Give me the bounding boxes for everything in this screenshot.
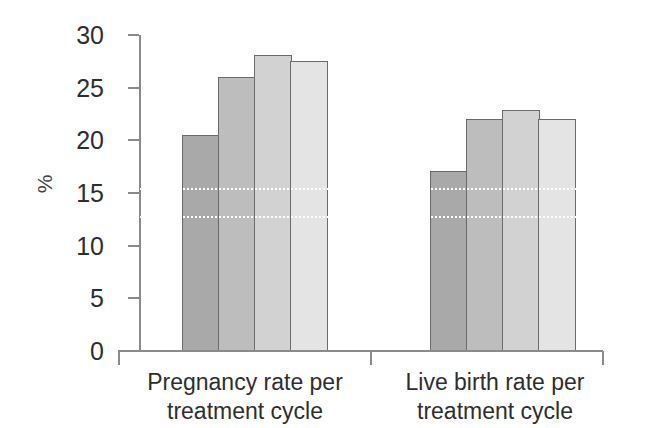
y-tick-label-10: 10 (62, 233, 104, 258)
bar-g2-s2 (466, 119, 504, 351)
y-tick-mark-20 (128, 139, 139, 141)
bar-g2-s4 (538, 119, 576, 351)
y-axis-tick-labels: 302520151050 (62, 0, 104, 428)
y-tick-mark-15 (128, 192, 139, 194)
bar-g1-s3 (254, 55, 292, 351)
bar-g1-s2 (218, 77, 256, 351)
y-tick-label-20: 20 (62, 128, 104, 153)
bar-group-1 (182, 35, 328, 351)
x-group-label-1: Pregnancy rate pertreatment cycle (115, 368, 375, 426)
x-group-label-2-line2: treatment cycle (365, 397, 625, 426)
x-axis-divider-2 (370, 351, 372, 365)
bar-g1-s4 (290, 61, 328, 351)
bar-g2-s1 (430, 171, 468, 351)
y-tick-mark-5 (128, 297, 139, 299)
y-tick-label-0: 0 (62, 339, 104, 364)
x-group-label-1-line2: treatment cycle (115, 397, 375, 426)
y-tick-mark-25 (128, 87, 139, 89)
x-axis-divider-1 (118, 351, 120, 365)
y-tick-mark-30 (128, 34, 139, 36)
x-group-label-2-line1: Live birth rate per (365, 368, 625, 397)
y-tick-label-30: 30 (62, 23, 104, 48)
bar-g1-s1 (182, 135, 220, 351)
bar-g2-s3 (502, 110, 540, 351)
x-axis-line (118, 350, 603, 352)
y-tick-label-5: 5 (62, 286, 104, 311)
y-axis-title: % (33, 161, 57, 207)
bar-group-2 (430, 35, 576, 351)
y-tick-label-25: 25 (62, 75, 104, 100)
x-group-label-2: Live birth rate pertreatment cycle (365, 368, 625, 426)
bar-chart: % 302520151050 Pregnancy rate pertreatme… (0, 0, 650, 428)
y-tick-mark-10 (128, 245, 139, 247)
plot-area (140, 35, 600, 351)
x-axis-divider-3 (602, 351, 604, 365)
x-group-label-1-line1: Pregnancy rate per (115, 368, 375, 397)
y-tick-label-15: 15 (62, 181, 104, 206)
